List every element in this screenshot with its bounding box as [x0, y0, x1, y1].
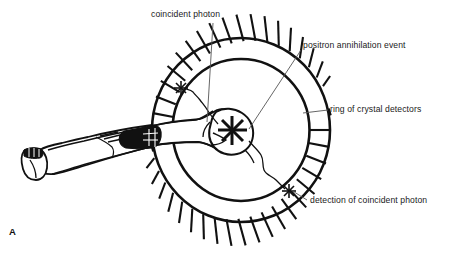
patient-figure — [22, 109, 254, 180]
figure-panel: coincident photon positron annihilation … — [0, 0, 454, 253]
pet-scanner-diagram — [0, 0, 454, 253]
photon-path-lower-right — [249, 141, 285, 189]
shoulder-line — [245, 150, 254, 163]
label-coincident-photon: coincident photon — [151, 10, 220, 19]
lower-right-detection-starburst — [282, 184, 296, 198]
upper-left-detection-starburst — [174, 81, 188, 95]
annihilation-starburst — [218, 116, 247, 145]
leader-coincident-photon — [207, 23, 213, 122]
label-detection-of-coincident-photon: detection of coincident photon — [310, 196, 427, 205]
label-ring-of-crystal-detectors: ring of crystal detectors — [330, 105, 421, 114]
panel-letter: A — [9, 226, 16, 237]
label-positron-annihilation-event: positron annihilation event — [303, 41, 406, 50]
